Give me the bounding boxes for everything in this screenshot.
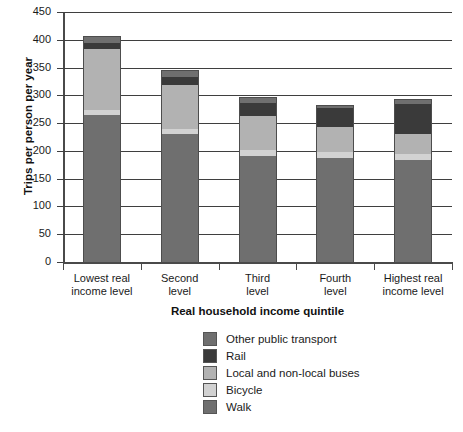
- y-tick-label-400: 400: [19, 34, 51, 45]
- bar-3: [239, 97, 277, 262]
- x-tick-2: [219, 262, 220, 270]
- legend-item-bicycle: Bicycle: [203, 381, 360, 398]
- bar-segment-walk: [394, 160, 432, 262]
- x-tick-5: [452, 262, 453, 270]
- x-axis-label-5: Highest realincome level: [371, 272, 455, 298]
- x-label-line: Third: [216, 272, 300, 285]
- legend-label: Local and non-local buses: [226, 367, 360, 379]
- x-label-line: Fourth: [293, 272, 377, 285]
- y-tick-250: [57, 123, 63, 124]
- y-tick-label-0: 0: [19, 256, 51, 267]
- y-tick-300: [57, 95, 63, 96]
- y-tick-200: [57, 151, 63, 152]
- y-tick-label-250: 250: [19, 117, 51, 128]
- bar-segment-rail: [316, 108, 354, 127]
- x-axis-ticks: [63, 262, 452, 272]
- bar-segment-bicycle: [394, 154, 432, 161]
- bar-segment-rail: [239, 103, 277, 117]
- bar-segment-walk: [239, 156, 277, 262]
- y-tick-50: [57, 234, 63, 235]
- plot-area: 050100150200250300350400450: [63, 12, 452, 262]
- y-tick-150: [57, 179, 63, 180]
- gridline-450: [63, 12, 452, 13]
- x-axis-label-2: Secondlevel: [138, 272, 222, 298]
- x-label-line: level: [138, 285, 222, 298]
- legend-swatch-icon: [203, 383, 217, 397]
- x-tick-3: [296, 262, 297, 270]
- bar-segment-local-and-non-local-buses: [239, 116, 277, 149]
- legend-swatch-icon: [203, 349, 217, 363]
- legend-swatch-icon: [203, 332, 217, 346]
- y-tick-label-300: 300: [19, 89, 51, 100]
- bar-segment-other-public-transport: [161, 70, 199, 77]
- bar-2: [161, 70, 199, 262]
- x-axis-label-1: Lowest realincome level: [60, 272, 144, 298]
- y-tick-450: [57, 12, 63, 13]
- bar-segment-bicycle: [239, 150, 277, 157]
- bar-segment-other-public-transport: [83, 36, 121, 43]
- y-tick-350: [57, 68, 63, 69]
- x-axis-label-4: Fourthlevel: [293, 272, 377, 298]
- legend-label: Other public transport: [226, 333, 337, 345]
- bar-segment-rail: [394, 104, 432, 134]
- bar-segment-walk: [83, 115, 121, 262]
- stacked-bar-chart: Trips per person per year 05010015020025…: [0, 0, 463, 432]
- legend-swatch-icon: [203, 366, 217, 380]
- y-tick-label-200: 200: [19, 145, 51, 156]
- x-label-line: income level: [371, 285, 455, 298]
- bar-segment-local-and-non-local-buses: [161, 85, 199, 129]
- x-label-line: Highest real: [371, 272, 455, 285]
- bar-segment-rail: [161, 77, 199, 85]
- legend-swatch-icon: [203, 400, 217, 414]
- x-axis-title: Real household income quintile: [63, 305, 452, 317]
- legend-item-rail: Rail: [203, 347, 360, 364]
- bar-segment-walk: [161, 134, 199, 262]
- y-tick-100: [57, 206, 63, 207]
- bar-segment-local-and-non-local-buses: [316, 127, 354, 152]
- x-tick-0: [63, 262, 64, 270]
- y-tick-label-100: 100: [19, 200, 51, 211]
- legend-item-walk: Walk: [203, 398, 360, 415]
- x-label-line: income level: [60, 285, 144, 298]
- legend-label: Walk: [226, 401, 251, 413]
- bar-5: [394, 99, 432, 262]
- legend-item-local-and-non-local-buses: Local and non-local buses: [203, 364, 360, 381]
- bar-1: [83, 36, 121, 262]
- x-label-line: Lowest real: [60, 272, 144, 285]
- gridline-350: [63, 68, 452, 69]
- y-tick-400: [57, 40, 63, 41]
- bar-segment-local-and-non-local-buses: [394, 134, 432, 154]
- y-tick-label-150: 150: [19, 173, 51, 184]
- y-tick-label-350: 350: [19, 62, 51, 73]
- x-label-line: level: [216, 285, 300, 298]
- chart-legend: Other public transportRailLocal and non-…: [203, 330, 360, 415]
- legend-label: Bicycle: [226, 384, 262, 396]
- bar-segment-walk: [316, 158, 354, 262]
- gridline-400: [63, 40, 452, 41]
- legend-label: Rail: [226, 350, 246, 362]
- x-tick-1: [141, 262, 142, 270]
- y-tick-label-450: 450: [19, 6, 51, 17]
- bar-segment-local-and-non-local-buses: [83, 49, 121, 110]
- legend-item-other-public-transport: Other public transport: [203, 330, 360, 347]
- y-tick-label-50: 50: [19, 228, 51, 239]
- bar-4: [316, 105, 354, 262]
- x-label-line: Second: [138, 272, 222, 285]
- x-axis-label-3: Thirdlevel: [216, 272, 300, 298]
- x-tick-4: [374, 262, 375, 270]
- x-label-line: level: [293, 285, 377, 298]
